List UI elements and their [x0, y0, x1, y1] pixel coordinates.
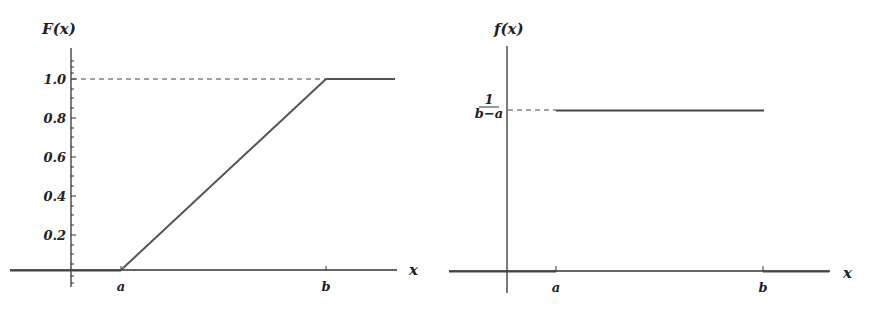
- cdf-y-tick-0.2: 0.2: [43, 228, 66, 243]
- pdf-chart: f(x) x 1 b−a a b: [449, 20, 853, 295]
- cdf-y-tick-0.4: 0.4: [43, 189, 66, 204]
- cdf-y-minor-ticks: [71, 61, 76, 283]
- pdf-y-tick-numerator: 1: [484, 92, 493, 107]
- cdf-x-tick-label-b: b: [321, 279, 330, 294]
- pdf-y-label: f(x): [493, 20, 524, 38]
- pdf-x-tick-label-b: b: [758, 280, 767, 295]
- cdf-ramp-segment: [121, 79, 326, 270]
- cdf-y-tick-1.0: 1.0: [43, 72, 66, 87]
- cdf-chart: F(x) x 1.0 0.8 0.6 0.4 0.2 a b: [10, 20, 419, 294]
- cdf-y-tick-0.8: 0.8: [43, 111, 66, 126]
- cdf-y-label: F(x): [41, 20, 76, 38]
- pdf-y-tick-denominator: b−a: [475, 106, 503, 121]
- cdf-x-tick-label-a: a: [117, 279, 125, 294]
- cdf-y-tick-0.6: 0.6: [43, 150, 66, 165]
- cdf-x-label: x: [408, 261, 419, 279]
- charts-canvas: F(x) x 1.0 0.8 0.6 0.4 0.2 a b f(x) x 1 …: [0, 0, 875, 311]
- pdf-x-tick-label-a: a: [552, 280, 560, 295]
- pdf-x-label: x: [842, 264, 853, 282]
